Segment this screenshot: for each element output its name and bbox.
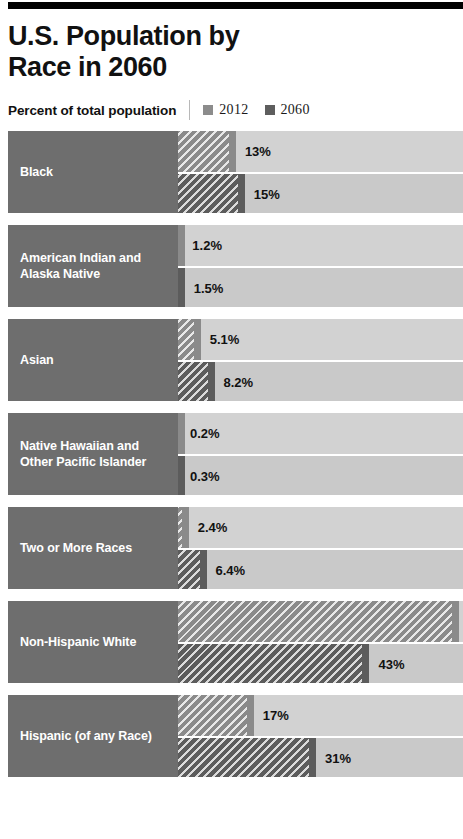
bar-value-label: 15% (245, 174, 280, 215)
bar-fill-2060 (178, 174, 245, 213)
bar-value-label: 31% (316, 738, 351, 779)
bar-group-inner: American Indian and Alaska Native1.2%1.5… (8, 225, 463, 307)
bar-row-2012[interactable]: 2.4% (178, 507, 463, 548)
bar-cap-2012 (182, 507, 189, 548)
bar-value-label: 5.1% (201, 319, 240, 360)
bar-rows: 0.2%0.3% (178, 413, 463, 495)
bar-group-inner: Hispanic (of any Race)17%31% (8, 695, 463, 777)
bar-value-label: 1.2% (183, 225, 222, 266)
bar-group-inner: Two or More Races2.4%6.4% (8, 507, 463, 589)
bar-rows: 63%43% (178, 601, 463, 683)
subhead-legend-row: Percent of total population 2012 2060 (8, 99, 463, 121)
bar-group-inner: Native Hawaiian and Other Pacific Island… (8, 413, 463, 495)
bar-fill-2012 (178, 131, 236, 172)
bar-row-2060[interactable]: 6.4% (178, 548, 463, 589)
bar-row-2012[interactable]: 0.2% (178, 413, 463, 454)
legend-swatch-2060-icon (265, 105, 275, 115)
bar-row-2012[interactable]: 5.1% (178, 319, 463, 360)
bar-row-2012[interactable]: 1.2% (178, 225, 463, 266)
bar-group-inner: Asian5.1%8.2% (8, 319, 463, 401)
bar-group-inner: Non-Hispanic White63%43% (8, 601, 463, 683)
chart-page: U.S. Population by Race in 2060 Percent … (0, 2, 463, 839)
page-title-line-2: Race in 2060 (8, 52, 167, 82)
bar-group: Black13%15% (8, 131, 463, 213)
bar-value-label: 6.4% (207, 550, 246, 591)
bar-fill-2012 (178, 601, 459, 642)
page-title-line-1: U.S. Population by (8, 21, 239, 51)
bar-cap-2060 (200, 550, 207, 589)
bar-row-2060[interactable]: 43% (178, 642, 463, 683)
bar-group: Non-Hispanic White63%43% (8, 601, 463, 683)
bar-cap-2060 (309, 738, 316, 777)
bar-value-label: 17% (254, 695, 289, 736)
legend-swatch-2012-icon (203, 105, 213, 115)
bar-cap-2012 (247, 695, 254, 736)
bar-rows: 13%15% (178, 131, 463, 213)
bar-group: Native Hawaiian and Other Pacific Island… (8, 413, 463, 495)
subhead-label: Percent of total population (8, 103, 176, 118)
bar-rows: 1.2%1.5% (178, 225, 463, 307)
bar-row-2060[interactable]: 15% (178, 172, 463, 213)
bar-value-label: 43% (369, 644, 404, 685)
bar-group: Hispanic (of any Race)17%31% (8, 695, 463, 777)
bar-rows: 2.4%6.4% (178, 507, 463, 589)
category-label: Hispanic (of any Race) (8, 695, 178, 777)
legend-item-2060[interactable]: 2060 (265, 102, 310, 118)
legend-item-2012[interactable]: 2012 (203, 102, 248, 118)
category-label: American Indian and Alaska Native (8, 225, 178, 307)
bar-row-2012[interactable]: 63% (178, 601, 463, 642)
bar-value-label: 8.2% (215, 362, 254, 403)
bar-cap-2012 (194, 319, 201, 360)
top-rule-divider (8, 2, 463, 9)
legend-label-2012: 2012 (219, 102, 248, 118)
bar-row-2012[interactable]: 13% (178, 131, 463, 172)
page-title: U.S. Population by Race in 2060 (8, 21, 438, 83)
bar-cap-2012 (229, 131, 236, 172)
bar-value-label: 2.4% (189, 507, 228, 548)
category-label: Non-Hispanic White (8, 601, 178, 683)
bar-rows: 5.1%8.2% (178, 319, 463, 401)
bar-row-2012[interactable]: 17% (178, 695, 463, 736)
legend-divider (189, 100, 190, 120)
bar-row-2060[interactable]: 0.3% (178, 454, 463, 495)
bar-group-inner: Black13%15% (8, 131, 463, 213)
bar-fill-2060 (178, 644, 369, 683)
bar-cap-2060 (238, 174, 245, 213)
bar-row-2060[interactable]: 8.2% (178, 360, 463, 401)
bar-value-label: 0.2% (181, 413, 220, 454)
category-label: Two or More Races (8, 507, 178, 589)
bar-group: Asian5.1%8.2% (8, 319, 463, 401)
category-label: Asian (8, 319, 178, 401)
bar-value-label: 63% (459, 601, 463, 642)
bar-chart: Black13%15%American Indian and Alaska Na… (8, 131, 463, 777)
category-label: Native Hawaiian and Other Pacific Island… (8, 413, 178, 495)
bar-rows: 17%31% (178, 695, 463, 777)
category-label: Black (8, 131, 178, 213)
bar-value-label: 0.3% (181, 456, 220, 497)
bar-row-2060[interactable]: 1.5% (178, 266, 463, 307)
legend-label-2060: 2060 (281, 102, 310, 118)
bar-cap-2060 (362, 644, 369, 683)
bar-fill-2060 (178, 738, 316, 777)
bar-fill-2012 (178, 695, 254, 736)
bar-row-2060[interactable]: 31% (178, 736, 463, 777)
bar-group: Two or More Races2.4%6.4% (8, 507, 463, 589)
chart-legend: 2012 2060 (203, 102, 309, 118)
bar-cap-2012 (452, 601, 459, 642)
bar-group: American Indian and Alaska Native1.2%1.5… (8, 225, 463, 307)
bar-value-label: 13% (236, 131, 271, 172)
bar-value-label: 1.5% (185, 268, 224, 309)
bar-cap-2060 (208, 362, 215, 401)
